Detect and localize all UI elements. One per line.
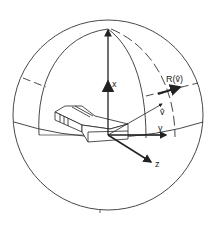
- r-vector-label: R(v̂): [166, 74, 183, 84]
- latitude-dashed-left: [23, 78, 46, 87]
- v-vector-label: v̂: [160, 107, 165, 117]
- v-vector: [108, 104, 162, 135]
- r-vector: [158, 87, 180, 94]
- y-axis-label: y: [158, 123, 163, 133]
- x-axis-label: x: [112, 79, 117, 89]
- sphere-diagram: x y z v̂ R(v̂): [0, 0, 214, 226]
- device-model: [55, 106, 128, 142]
- diagram-canvas: x y z v̂ R(v̂): [0, 0, 214, 226]
- z-axis: [108, 135, 151, 162]
- z-axis-label: z: [155, 159, 160, 169]
